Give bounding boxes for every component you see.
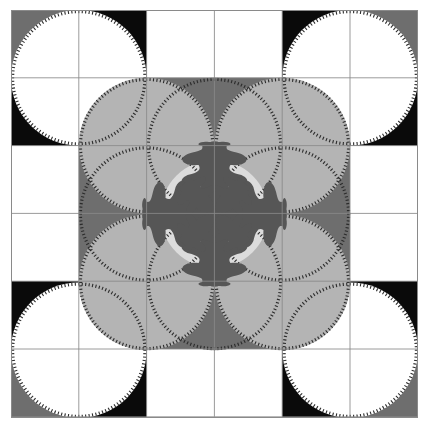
artwork-canvas bbox=[0, 0, 429, 428]
block-r0-c3 bbox=[214, 10, 282, 78]
block-r2-c5 bbox=[350, 146, 418, 214]
quilt-pattern-svg bbox=[0, 0, 429, 428]
block-r5-c2 bbox=[147, 349, 215, 417]
block-r0-c2 bbox=[147, 10, 215, 78]
block-r3-c5 bbox=[350, 213, 418, 281]
block-r2-c0 bbox=[11, 146, 79, 214]
block-r5-c3 bbox=[214, 349, 282, 417]
block-r3-c0 bbox=[11, 213, 79, 281]
